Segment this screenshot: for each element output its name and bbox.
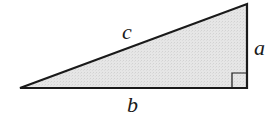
right-triangle-diagram: c a b bbox=[0, 0, 277, 117]
triangle-shape bbox=[20, 4, 247, 88]
diagram-canvas: c a b bbox=[0, 0, 277, 117]
label-leg-a: a bbox=[254, 35, 265, 60]
label-hypotenuse-c: c bbox=[122, 19, 132, 44]
label-leg-b: b bbox=[127, 92, 138, 117]
